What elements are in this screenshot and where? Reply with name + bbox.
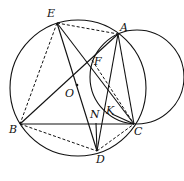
circle-O — [10, 20, 146, 156]
dashed-segment-eb — [20, 23, 57, 124]
point-label-f: F — [94, 56, 102, 67]
center-point-o — [76, 84, 79, 87]
segment-ac — [118, 34, 134, 124]
segment-ad — [97, 34, 118, 151]
point-label-b: B — [9, 124, 17, 135]
figure-canvas — [0, 0, 184, 181]
point-label-c: C — [134, 126, 142, 137]
point-label-o: O — [65, 88, 74, 99]
geometry-diagram: EAFOBNKCD — [0, 0, 184, 181]
point-label-e: E — [47, 8, 55, 19]
dashed-segment-ea — [57, 23, 118, 34]
point-label-k: K — [106, 105, 114, 116]
point-label-n: N — [90, 109, 100, 120]
point-label-a: A — [120, 22, 128, 33]
point-label-d: D — [96, 154, 105, 165]
dashed-segment-dc — [97, 124, 134, 151]
